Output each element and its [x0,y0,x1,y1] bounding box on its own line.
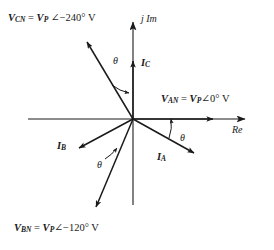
label-imaginary-axis: j Im [141,14,157,24]
label-theta-a: θ [180,133,185,143]
label-ic: IC [141,58,150,69]
angle-arc-theta-b [105,148,117,159]
label-vcn-equation: VCN = VP ∠−240° V [8,13,96,24]
phasor-vcn-arrow [87,42,133,119]
label-vbn-equation: VBN = VP∠−120° V [14,223,99,234]
phasor-ib-arrow [79,119,133,148]
label-ib: IB [57,141,66,152]
phasor-diagram-figure: VCN = VP ∠−240° V VAN = VP∠0° V VBN = VP… [0,0,274,250]
label-van-equation: VAN = VP∠0° V [161,94,230,105]
label-theta-c: θ [113,56,118,66]
label-theta-b: θ [97,160,102,170]
angle-arc-theta-a [169,119,171,138]
label-ia: IA [157,152,166,163]
label-real-axis: Re [232,125,243,135]
